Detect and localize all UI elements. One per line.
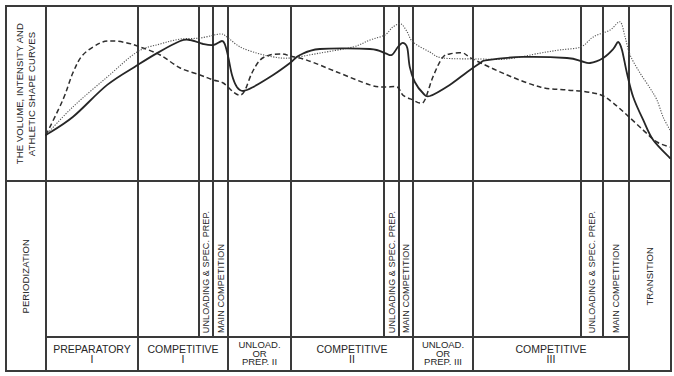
phase-number: I bbox=[91, 354, 94, 365]
curves-label-cell: THE VOLUME, INTENSITY AND ATHLETIC SHAPE… bbox=[6, 6, 46, 181]
dashed-curve bbox=[46, 41, 670, 147]
periodization-label: PERIODIZATION bbox=[20, 239, 32, 314]
subphase-main-competition-1: MAIN COMPETITION bbox=[213, 181, 228, 333]
periodization-figure: THE VOLUME, INTENSITY AND ATHLETIC SHAPE… bbox=[0, 0, 674, 376]
phase-unload-prep-2: UNLOAD. OR PREP. II bbox=[228, 337, 291, 371]
unloading-spec-prep-label: UNLOADING & SPEC. PREP. bbox=[587, 211, 597, 333]
subphase-unloading-2: UNLOADING & SPEC. PREP. bbox=[384, 181, 399, 333]
phase-competitive-3: COMPETITIVE III bbox=[473, 337, 629, 371]
phase-number: II bbox=[349, 354, 355, 365]
main-competition-label: MAIN COMPETITION bbox=[216, 244, 226, 333]
phase-competitive-2: COMPETITIVE II bbox=[291, 337, 413, 371]
phase-unload-prep-3: UNLOAD. OR PREP. III bbox=[413, 337, 473, 371]
dotted-curve bbox=[46, 22, 670, 135]
phase-number: III bbox=[547, 354, 556, 365]
unloading-spec-prep-label: UNLOADING & SPEC. PREP. bbox=[201, 211, 211, 333]
phase-alt-name: PREP. II bbox=[242, 358, 277, 367]
main-competition-label: MAIN COMPETITION bbox=[401, 244, 411, 333]
phase-number: I bbox=[182, 354, 185, 365]
unloading-spec-prep-label: UNLOADING & SPEC. PREP. bbox=[387, 211, 397, 333]
phase-alt-name: PREP. III bbox=[424, 358, 462, 367]
phase-competitive-1: COMPETITIVE I bbox=[138, 337, 228, 371]
subphase-main-competition-2: MAIN COMPETITION bbox=[399, 181, 413, 333]
main-competition-label: MAIN COMPETITION bbox=[611, 244, 621, 333]
curves-label: THE VOLUME, INTENSITY AND ATHLETIC SHAPE… bbox=[14, 23, 38, 164]
subphase-unloading-3: UNLOADING & SPEC. PREP. bbox=[581, 181, 603, 333]
curves-label-line2: ATHLETIC SHAPE CURVES bbox=[26, 23, 38, 164]
periodization-label-cell: PERIODIZATION bbox=[6, 181, 46, 371]
subphase-unloading-1: UNLOADING & SPEC. PREP. bbox=[199, 181, 213, 333]
transition-label: TRANSITION bbox=[644, 247, 656, 306]
curves-plot bbox=[0, 0, 674, 376]
curves-label-line1: THE VOLUME, INTENSITY AND bbox=[14, 23, 26, 164]
solid-curve bbox=[46, 39, 670, 158]
phase-preparatory-1: PREPARATORY I bbox=[46, 337, 138, 371]
transition-cell: TRANSITION bbox=[629, 181, 671, 371]
subphase-main-competition-3: MAIN COMPETITION bbox=[603, 181, 629, 333]
